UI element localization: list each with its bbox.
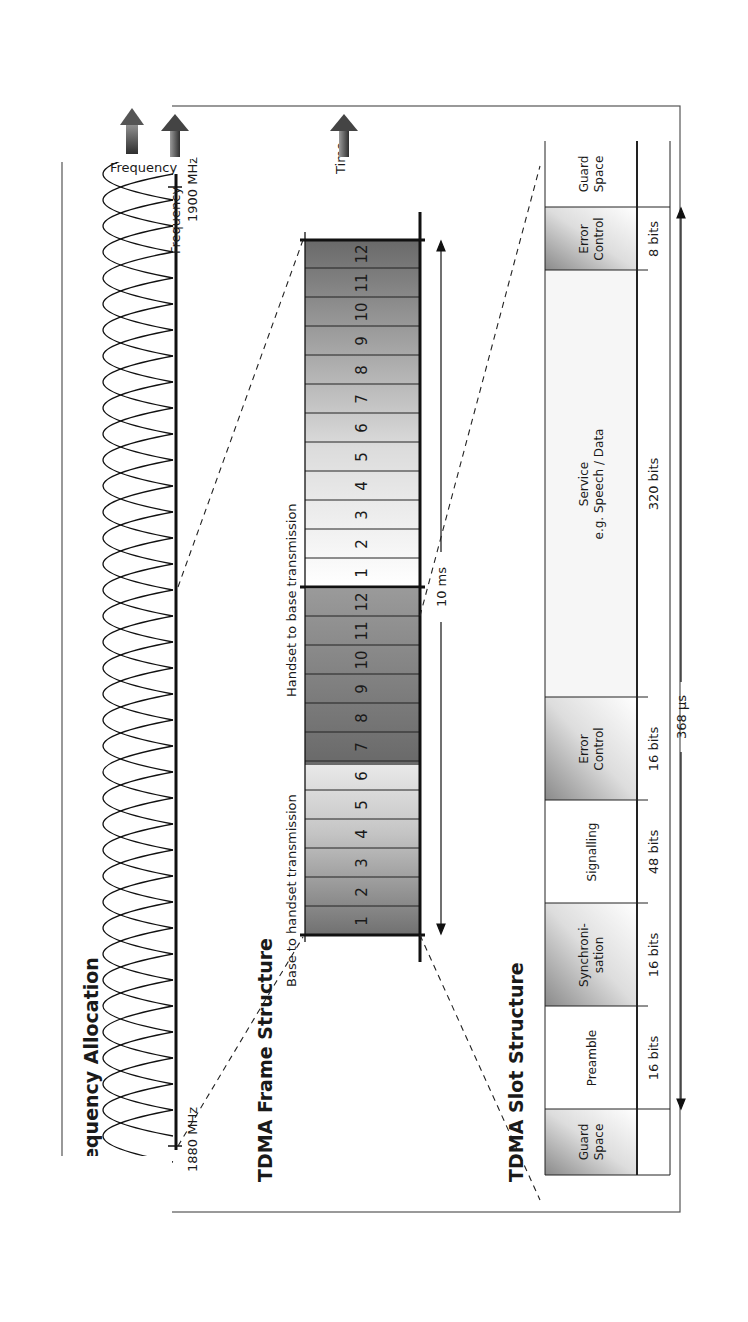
- svg-text:7: 7: [353, 742, 371, 752]
- svg-text:9: 9: [353, 336, 371, 346]
- svg-text:16 bits: 16 bits: [646, 1036, 661, 1081]
- frequency-axis-label-main: Frequency: [168, 187, 183, 254]
- svg-text:2: 2: [353, 539, 371, 549]
- uplink-label: Handset to base transmission: [284, 503, 299, 697]
- svg-text:10: 10: [353, 650, 371, 669]
- frame-duration-label: 10 ms: [434, 567, 449, 607]
- svg-text:Space: Space: [592, 156, 606, 193]
- svg-text:48 bits: 48 bits: [646, 830, 661, 875]
- svg-text:2: 2: [353, 887, 371, 897]
- svg-text:sation: sation: [592, 937, 606, 974]
- svg-text:3: 3: [353, 510, 371, 520]
- svg-text:6: 6: [353, 771, 371, 781]
- svg-text:4: 4: [353, 481, 371, 491]
- svg-text:6: 6: [353, 423, 371, 433]
- svg-text:Signalling: Signalling: [585, 823, 599, 882]
- downlink-label: Base to handset transmission: [284, 794, 299, 987]
- svg-text:Synchroni-: Synchroni-: [577, 923, 591, 987]
- svg-text:8 bits: 8 bits: [646, 221, 661, 257]
- slot-structure-title: TDMA Slot Structure: [505, 962, 527, 1182]
- svg-text:Control: Control: [592, 727, 606, 770]
- svg-text:Control: Control: [592, 217, 606, 260]
- svg-text:7: 7: [353, 394, 371, 404]
- svg-text:Service: Service: [577, 462, 591, 506]
- svg-text:3: 3: [353, 858, 371, 868]
- freq-start-label: 1880 MHz: [185, 1107, 200, 1172]
- frequency-allocation-title: Frequency Allocation: [80, 957, 102, 1182]
- svg-text:11: 11: [353, 273, 371, 292]
- svg-text:Preamble: Preamble: [585, 1030, 599, 1086]
- svg-text:5: 5: [353, 800, 371, 810]
- svg-text:9: 9: [353, 684, 371, 694]
- svg-text:Error: Error: [577, 734, 591, 763]
- svg-text:8: 8: [353, 365, 371, 375]
- freq-end-label: 1900 MHz: [185, 157, 200, 222]
- slot-duration-label: 368 µs: [674, 695, 689, 739]
- tdma-diagram: Frequency Allocation: [0, 0, 748, 1322]
- svg-text:Guard: Guard: [577, 1124, 591, 1161]
- svg-text:16 bits: 16 bits: [646, 933, 661, 978]
- svg-text:1: 1: [353, 568, 371, 578]
- svg-text:11: 11: [353, 621, 371, 640]
- slot-fields: [545, 141, 637, 1175]
- svg-text:10: 10: [353, 302, 371, 321]
- frequency-axis-label: Frequency: [110, 160, 177, 175]
- svg-text:Guard: Guard: [577, 156, 591, 193]
- svg-text:4: 4: [353, 829, 371, 839]
- svg-text:1: 1: [353, 916, 371, 926]
- svg-text:5: 5: [353, 452, 371, 462]
- svg-text:16 bits: 16 bits: [646, 727, 661, 772]
- svg-text:8: 8: [353, 713, 371, 723]
- svg-text:Space: Space: [592, 1124, 606, 1161]
- svg-text:e.g. Speech / Data: e.g. Speech / Data: [592, 429, 606, 540]
- svg-text:12: 12: [353, 592, 371, 611]
- svg-text:12: 12: [353, 244, 371, 263]
- svg-text:Error: Error: [577, 224, 591, 253]
- frame-structure-title: TDMA Frame Structure: [254, 938, 276, 1182]
- svg-text:320 bits: 320 bits: [646, 457, 661, 510]
